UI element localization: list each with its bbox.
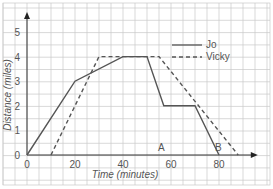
annotation-b: B	[215, 142, 222, 153]
grid	[3, 3, 270, 185]
legend: Jo Vicky	[172, 39, 230, 62]
x-axis-label: Time (minutes)	[92, 169, 159, 180]
x-tick-label: 60	[165, 159, 177, 170]
y-axis-label: Distance (miles)	[2, 59, 13, 131]
y-tick-label: 5	[14, 27, 20, 38]
series-vicky-line	[51, 57, 238, 155]
y-tick-label: 1	[14, 125, 20, 136]
legend-vicky-label: Vicky	[206, 51, 230, 62]
y-tick-label: 4	[14, 52, 20, 63]
tick-labels: 020406080012345	[14, 27, 225, 170]
annotation-a: A	[158, 142, 165, 153]
y-tick-label: 0	[14, 150, 20, 161]
series-lines	[27, 57, 238, 155]
x-tick-label: 80	[213, 159, 225, 170]
x-tick-label: 20	[69, 159, 81, 170]
y-tick-label: 2	[14, 101, 20, 112]
y-tick-label: 3	[14, 76, 20, 87]
legend-jo-label: Jo	[206, 39, 217, 50]
axes	[24, 12, 258, 158]
distance-time-chart: 020406080012345 Jo Vicky A B Time (minut…	[0, 0, 273, 189]
x-tick-label: 0	[24, 159, 30, 170]
